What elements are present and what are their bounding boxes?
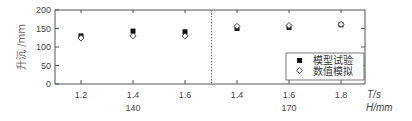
legend-label-model-test: 模型试验 — [313, 54, 353, 66]
ytick-150: 150 — [36, 24, 51, 34]
ytick-0: 0 — [46, 79, 51, 89]
legend: 模型试验 数值模拟 — [286, 53, 364, 80]
ytick-200: 200 — [36, 5, 51, 15]
legend-label-numerical-sim: 数值模拟 — [313, 65, 353, 77]
xtick-t-3: 1.6 — [179, 90, 192, 100]
xtick-t-6: 1.8 — [335, 90, 348, 100]
ytick-50: 50 — [41, 61, 51, 71]
xtick-t-4: 1.4 — [231, 90, 244, 100]
xtick-t-5: 1.6 — [283, 90, 296, 100]
x-axis-title-h: H/mm — [366, 102, 393, 113]
xtick-h-2: 170 — [281, 103, 296, 113]
legend-square-icon — [297, 58, 302, 63]
chart: 0 50 100 150 200 升沉 /mm 1.2 1.4 1.6 1.4 … — [0, 0, 412, 121]
series-model-test — [79, 22, 344, 38]
ytick-100: 100 — [36, 42, 51, 52]
y-axis-title: 升沉 /mm — [15, 24, 27, 70]
xtick-t-1: 1.2 — [75, 90, 88, 100]
xtick-h-1: 140 — [125, 103, 140, 113]
x-axis-title-t: T/s — [367, 89, 381, 100]
xtick-t-2: 1.4 — [127, 90, 140, 100]
point-diamond — [130, 33, 136, 39]
